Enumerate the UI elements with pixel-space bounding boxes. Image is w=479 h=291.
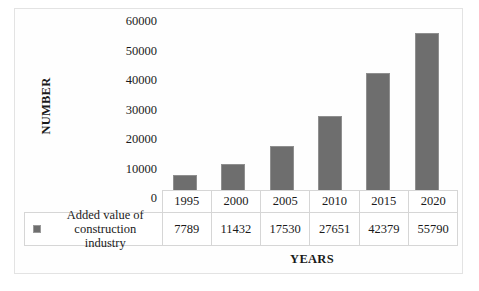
bar-2015 bbox=[366, 73, 390, 198]
table-value-2000: 11432 bbox=[211, 213, 260, 246]
bar-slot-2015 bbox=[354, 21, 402, 198]
legend-label-line2: construction industry bbox=[74, 222, 136, 250]
table-year-2000: 2000 bbox=[211, 191, 260, 213]
y-tick-20000: 20000 bbox=[105, 133, 157, 145]
table-value-2015: 42379 bbox=[359, 213, 408, 246]
y-tick-10000: 10000 bbox=[105, 163, 157, 175]
table-row-values: Added value of construction industry 778… bbox=[25, 213, 458, 246]
table-year-2015: 2015 bbox=[359, 191, 408, 213]
table-value-2020: 55790 bbox=[408, 213, 457, 246]
y-tick-50000: 50000 bbox=[105, 45, 157, 57]
table-year-2005: 2005 bbox=[261, 191, 310, 213]
legend-swatch-icon bbox=[33, 225, 41, 233]
bar-slot-2005 bbox=[258, 21, 306, 198]
y-axis-tick-labels: 60000 50000 40000 30000 20000 10000 0 bbox=[105, 21, 157, 198]
plot-area: 60000 50000 40000 30000 20000 10000 0 bbox=[161, 21, 451, 198]
x-axis-title: YEARS bbox=[172, 252, 452, 267]
table-value-2005: 17530 bbox=[261, 213, 310, 246]
table-value-1995: 7789 bbox=[162, 213, 211, 246]
bar-2010 bbox=[318, 116, 342, 198]
y-tick-40000: 40000 bbox=[105, 74, 157, 86]
legend-label-line1: Added value of bbox=[67, 208, 144, 222]
table-year-2010: 2010 bbox=[310, 191, 359, 213]
bar-series bbox=[161, 21, 451, 198]
legend-label: Added value of construction industry bbox=[53, 208, 162, 250]
y-tick-60000: 60000 bbox=[105, 15, 157, 27]
bar-2020 bbox=[415, 33, 439, 198]
bar-slot-2000 bbox=[209, 21, 257, 198]
bar-slot-1995 bbox=[161, 21, 209, 198]
y-axis-title: NUMBER bbox=[37, 66, 55, 146]
legend-entry: Added value of construction industry bbox=[25, 213, 163, 246]
y-tick-30000: 30000 bbox=[105, 104, 157, 116]
table-year-1995: 1995 bbox=[162, 191, 211, 213]
bar-slot-2010 bbox=[306, 21, 354, 198]
data-table: 1995 2000 2005 2010 2015 2020 Added valu… bbox=[24, 190, 458, 246]
bar-slot-2020 bbox=[403, 21, 451, 198]
table-year-2020: 2020 bbox=[408, 191, 457, 213]
figure-frame: NUMBER 60000 50000 40000 30000 20000 100… bbox=[14, 8, 463, 274]
table-value-2010: 27651 bbox=[310, 213, 359, 246]
